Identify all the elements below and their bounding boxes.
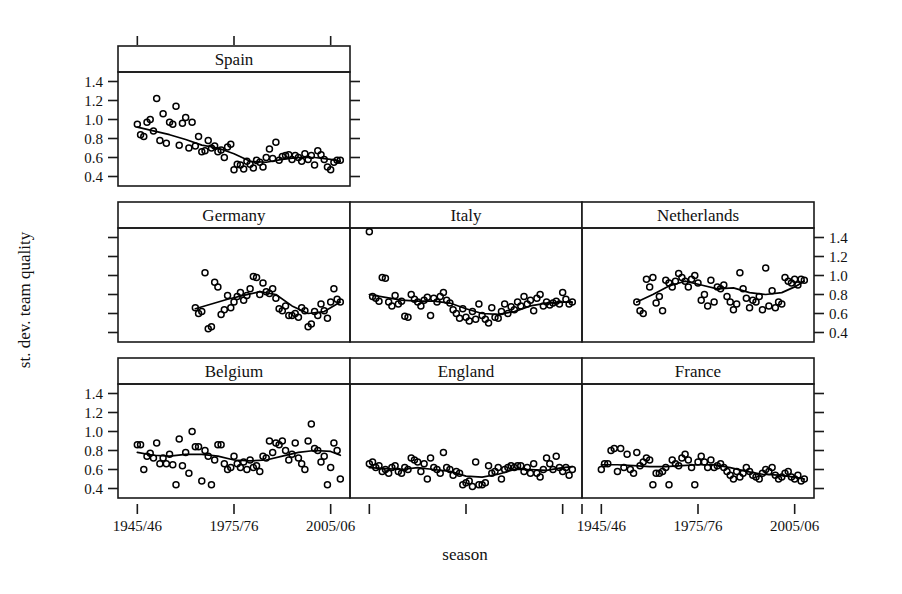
data-point bbox=[163, 140, 169, 146]
x-tick-label: 1945/46 bbox=[113, 518, 163, 534]
panel-frame-belgium bbox=[118, 384, 350, 498]
data-point bbox=[186, 145, 192, 151]
data-point bbox=[231, 299, 237, 305]
data-point bbox=[685, 457, 691, 463]
data-point bbox=[692, 482, 698, 488]
data-point bbox=[708, 277, 714, 283]
data-point bbox=[334, 448, 340, 454]
data-point bbox=[328, 465, 334, 471]
data-point bbox=[176, 142, 182, 148]
data-point bbox=[221, 461, 227, 467]
x-tick-label: 1945/46 bbox=[577, 518, 627, 534]
panel-germany: Germany bbox=[118, 202, 350, 342]
panel-title-france: France bbox=[675, 362, 721, 381]
data-point bbox=[205, 137, 211, 143]
data-point bbox=[737, 270, 743, 276]
data-point bbox=[318, 459, 324, 465]
data-point bbox=[266, 438, 272, 444]
data-point bbox=[260, 164, 266, 170]
data-point bbox=[212, 457, 218, 463]
panel-title-italy: Italy bbox=[450, 206, 482, 225]
data-point bbox=[321, 453, 327, 459]
data-point bbox=[527, 470, 533, 476]
data-point bbox=[624, 451, 630, 457]
data-point bbox=[476, 301, 482, 307]
panel-frame-germany bbox=[118, 228, 350, 342]
data-point bbox=[154, 440, 160, 446]
data-point bbox=[560, 290, 566, 296]
data-point bbox=[202, 448, 208, 454]
panel-england: England bbox=[350, 358, 582, 498]
x-axis-title: season bbox=[442, 545, 488, 564]
x-tick-label: 2005/06 bbox=[770, 518, 820, 534]
data-point bbox=[772, 305, 778, 311]
data-point bbox=[614, 468, 620, 474]
y-tick-label: 1.2 bbox=[84, 93, 103, 109]
data-point bbox=[305, 438, 311, 444]
data-point bbox=[328, 299, 334, 305]
panel-frame-italy bbox=[350, 228, 582, 342]
data-point bbox=[266, 146, 272, 152]
data-point bbox=[208, 482, 214, 488]
data-point bbox=[324, 482, 330, 488]
data-point bbox=[205, 453, 211, 459]
data-point bbox=[312, 162, 318, 168]
y-tick-label: 0.8 bbox=[829, 287, 848, 303]
data-point bbox=[457, 315, 463, 321]
data-point bbox=[302, 151, 308, 157]
panel-title-spain: Spain bbox=[215, 50, 254, 69]
data-point bbox=[531, 461, 537, 467]
data-point bbox=[544, 455, 550, 461]
data-point bbox=[650, 274, 656, 280]
panel-netherlands: Netherlands bbox=[582, 202, 814, 342]
data-point bbox=[170, 462, 176, 468]
data-point bbox=[634, 449, 640, 455]
data-point bbox=[299, 461, 305, 467]
data-point bbox=[598, 467, 604, 473]
y-tick-label: 1.2 bbox=[829, 249, 848, 265]
data-point bbox=[730, 307, 736, 313]
data-point bbox=[743, 295, 749, 301]
data-point bbox=[157, 137, 163, 143]
data-point bbox=[547, 461, 553, 467]
panel-france: France bbox=[582, 358, 814, 498]
data-point bbox=[724, 293, 730, 299]
data-point bbox=[531, 308, 537, 314]
data-point bbox=[221, 307, 227, 313]
data-point bbox=[225, 292, 231, 298]
data-point bbox=[186, 470, 192, 476]
data-point bbox=[331, 440, 337, 446]
data-point bbox=[179, 463, 185, 469]
trellis-chart-figure: SpainGermanyItalyNetherlandsBelgiumEngla… bbox=[0, 0, 902, 594]
data-point bbox=[231, 167, 237, 173]
data-point bbox=[308, 421, 314, 427]
data-point bbox=[179, 120, 185, 126]
data-point bbox=[553, 453, 559, 459]
data-point bbox=[331, 286, 337, 292]
data-point bbox=[215, 284, 221, 290]
y-tick-label: 1.0 bbox=[84, 112, 103, 128]
data-point bbox=[656, 293, 662, 299]
panel-title-belgium: Belgium bbox=[205, 362, 264, 381]
data-point bbox=[428, 455, 434, 461]
y-tick-label: 0.4 bbox=[84, 481, 103, 497]
data-point bbox=[173, 482, 179, 488]
data-point bbox=[566, 472, 572, 478]
data-point bbox=[273, 295, 279, 301]
data-point bbox=[647, 284, 653, 290]
data-point bbox=[202, 270, 208, 276]
data-point bbox=[173, 103, 179, 109]
data-point bbox=[701, 292, 707, 298]
data-point bbox=[183, 115, 189, 121]
data-point bbox=[469, 484, 475, 490]
data-point bbox=[653, 300, 659, 306]
data-point bbox=[189, 119, 195, 125]
data-point bbox=[324, 315, 330, 321]
data-point bbox=[292, 440, 298, 446]
y-tick-label: 1.0 bbox=[829, 268, 848, 284]
data-point bbox=[247, 286, 253, 292]
data-point bbox=[766, 303, 772, 309]
data-point bbox=[196, 134, 202, 140]
data-point bbox=[231, 453, 237, 459]
data-point bbox=[698, 297, 704, 303]
